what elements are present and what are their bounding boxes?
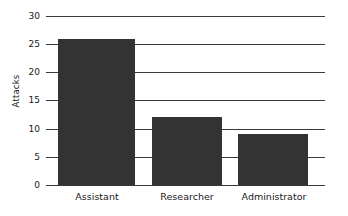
x-axis-label-assistant: Assistant (56, 192, 138, 202)
y-axis-label-10: 10 (10, 125, 40, 134)
bar-researcher (152, 117, 222, 185)
tick-25 (46, 44, 58, 45)
y-axis-title: Attacks (11, 61, 21, 121)
gridline-30 (58, 16, 325, 17)
tick-10 (46, 129, 58, 130)
bar-assistant (58, 39, 135, 185)
tick-30 (46, 16, 58, 17)
x-axis-label-researcher: Researcher (146, 192, 228, 202)
plot-area: 30 25 20 15 10 5 0 Assistant Researcher … (0, 0, 348, 216)
y-axis-label-25: 25 (10, 40, 40, 49)
tick-15 (46, 100, 58, 101)
bar-administrator (238, 134, 308, 185)
x-axis-baseline (58, 185, 325, 186)
tick-20 (46, 72, 58, 73)
y-axis-label-30: 30 (10, 12, 40, 21)
tick-0 (46, 185, 58, 186)
y-axis-label-5: 5 (10, 153, 40, 162)
bar-chart: 30 25 20 15 10 5 0 Assistant Researcher … (0, 0, 348, 216)
x-axis-label-administrator: Administrator (232, 192, 316, 202)
y-axis-label-0: 0 (10, 181, 40, 190)
tick-5 (46, 157, 58, 158)
